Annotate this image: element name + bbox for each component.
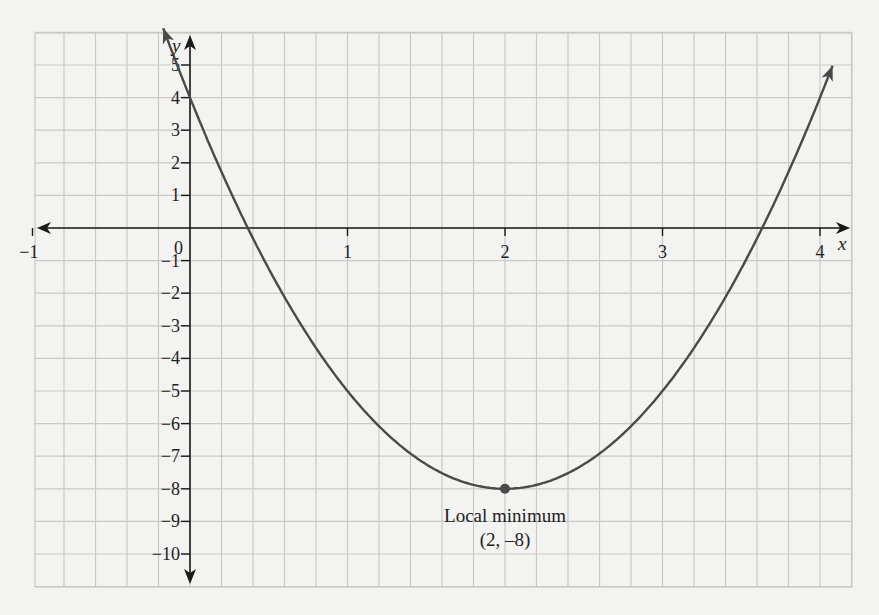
y-tick-label: −2 [161, 283, 180, 303]
y-tick-label: −8 [161, 479, 180, 499]
y-tick-label: −6 [161, 414, 180, 434]
grid-lines [35, 32, 852, 587]
y-tick-label: −3 [161, 316, 180, 336]
y-tick-label: −4 [161, 348, 180, 368]
y-tick-label: −10 [152, 544, 180, 564]
x-axis-label: x [837, 233, 847, 254]
y-tick-label: −5 [161, 381, 180, 401]
x-tick-label: 1 [343, 242, 352, 262]
x-tick-label: 2 [501, 242, 510, 262]
y-axis-label: y [170, 35, 181, 56]
y-tick-label: 1 [171, 185, 180, 205]
y-tick-label: 2 [171, 153, 180, 173]
annotation-label: Local minimum [444, 505, 566, 526]
origin-label: 0 [174, 238, 183, 258]
x-tick-label: −1 [19, 242, 38, 262]
y-tick-label: −9 [161, 511, 180, 531]
y-tick-label: 4 [171, 88, 180, 108]
function-graph: −1123454321−1−2−3−4−5−6−7−8−9−10 Local m… [0, 0, 879, 615]
x-tick-label: 4 [816, 242, 825, 262]
y-tick-label: −7 [161, 446, 180, 466]
x-tick-label: 3 [658, 242, 667, 262]
local-minimum-point [500, 484, 510, 494]
axis-ticks: −1123454321−1−2−3−4−5−6−7−8−9−10 [19, 55, 824, 564]
y-tick-label: 3 [171, 120, 180, 140]
annotation-coordinates: (2, –8) [480, 529, 531, 551]
